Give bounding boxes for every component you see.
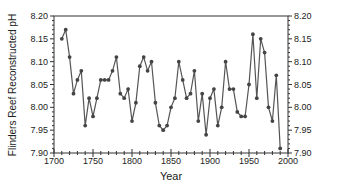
data-point-marker bbox=[95, 96, 99, 100]
y-tick-labels-right: 7.907.958.008.058.108.158.20 bbox=[294, 11, 312, 158]
y-tick-label-right: 7.95 bbox=[294, 125, 312, 135]
x-tick-label: 1800 bbox=[122, 156, 142, 166]
data-point-marker bbox=[189, 92, 193, 96]
x-tick-labels: 1700175018001850190019502000 bbox=[44, 156, 298, 166]
data-point-marker bbox=[196, 119, 200, 123]
data-point-marker bbox=[271, 119, 275, 123]
data-point-marker bbox=[181, 78, 185, 82]
data-point-marker bbox=[177, 60, 181, 64]
y-tick-label-right: 7.90 bbox=[294, 148, 312, 158]
y-tick-label: 8.00 bbox=[30, 102, 48, 112]
x-axis-label: Year bbox=[160, 170, 183, 182]
data-point-marker bbox=[193, 69, 197, 73]
data-point-marker bbox=[87, 96, 91, 100]
data-point-marker bbox=[79, 69, 83, 73]
data-point-marker bbox=[212, 87, 216, 91]
data-point-marker bbox=[64, 28, 68, 32]
y-tick-label-right: 8.15 bbox=[294, 34, 312, 44]
data-point-marker bbox=[154, 101, 158, 105]
data-point-marker bbox=[76, 78, 80, 82]
data-point-marker bbox=[118, 92, 122, 96]
data-point-marker bbox=[107, 78, 111, 82]
y-tick-label-right: 8.00 bbox=[294, 102, 312, 112]
y-tick-label: 8.20 bbox=[30, 11, 48, 21]
y-tick-label: 7.90 bbox=[30, 148, 48, 158]
data-point-marker bbox=[243, 115, 247, 119]
y-axis-label: Flinders Reef Reconstructed pH bbox=[7, 14, 18, 156]
ph-series-line bbox=[62, 30, 280, 149]
data-point-marker bbox=[138, 64, 142, 68]
data-point-marker bbox=[228, 87, 232, 91]
data-point-marker bbox=[157, 124, 161, 128]
data-point-marker bbox=[91, 115, 95, 119]
data-point-marker bbox=[232, 87, 236, 91]
data-point-marker bbox=[220, 105, 224, 109]
x-tick-label: 1850 bbox=[161, 156, 181, 166]
y-tick-label: 8.05 bbox=[30, 80, 48, 90]
data-point-marker bbox=[224, 60, 228, 64]
x-tick-label: 1950 bbox=[239, 156, 259, 166]
data-point-marker bbox=[239, 115, 243, 119]
data-point-marker bbox=[68, 55, 72, 59]
data-point-marker bbox=[235, 110, 239, 114]
data-point-marker bbox=[134, 101, 138, 105]
y-tick-label: 8.10 bbox=[30, 57, 48, 67]
ph-line-chart: 1700175018001850190019502000 7.907.958.0… bbox=[0, 0, 342, 190]
data-point-marker bbox=[251, 32, 255, 36]
y-tick-label: 7.95 bbox=[30, 125, 48, 135]
data-point-marker bbox=[161, 128, 165, 132]
data-point-marker bbox=[111, 69, 115, 73]
y-tick-labels-left: 7.907.958.008.058.108.158.20 bbox=[30, 11, 48, 158]
data-point-marker bbox=[259, 37, 263, 41]
data-point-marker bbox=[150, 60, 154, 64]
data-point-marker bbox=[103, 78, 107, 82]
x-tick-label: 1900 bbox=[200, 156, 220, 166]
data-point-marker bbox=[263, 51, 267, 55]
data-point-marker bbox=[115, 55, 119, 59]
data-point-marker bbox=[200, 92, 204, 96]
data-point-marker bbox=[146, 69, 150, 73]
data-point-marker bbox=[72, 92, 76, 96]
data-point-marker bbox=[169, 105, 173, 109]
y-tick-label-right: 8.10 bbox=[294, 57, 312, 67]
x-tick-label: 1750 bbox=[83, 156, 103, 166]
data-point-marker bbox=[185, 96, 189, 100]
data-point-marker bbox=[165, 124, 169, 128]
y-tick-label: 8.15 bbox=[30, 34, 48, 44]
data-point-marker bbox=[126, 87, 130, 91]
data-point-marker bbox=[60, 37, 64, 41]
data-point-marker bbox=[83, 124, 87, 128]
data-point-marker bbox=[278, 147, 282, 151]
data-point-marker bbox=[130, 119, 134, 123]
data-point-marker bbox=[204, 133, 208, 137]
data-point-marker bbox=[99, 78, 103, 82]
data-point-marker bbox=[208, 96, 212, 100]
data-point-marker bbox=[247, 83, 251, 87]
data-point-marker bbox=[142, 55, 146, 59]
data-point-marker bbox=[216, 124, 220, 128]
data-point-marker bbox=[267, 105, 271, 109]
y-tick-label-right: 8.20 bbox=[294, 11, 312, 21]
data-point-marker bbox=[255, 96, 259, 100]
y-tick-label-right: 8.05 bbox=[294, 80, 312, 90]
data-point-marker bbox=[173, 96, 177, 100]
data-point-marker bbox=[274, 73, 278, 77]
data-point-marker bbox=[122, 96, 126, 100]
